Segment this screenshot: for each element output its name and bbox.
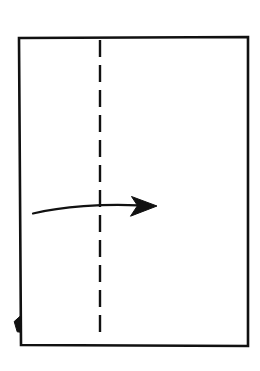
origami-fold-diagram — [0, 0, 260, 371]
diagram-canvas — [0, 0, 260, 371]
paper-sheet — [19, 37, 248, 346]
